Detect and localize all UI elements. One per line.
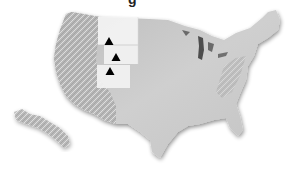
contiguous-us	[54, 10, 280, 158]
state-montana	[98, 17, 138, 45]
us-relief-map	[0, 0, 301, 169]
alaska-inset	[14, 109, 70, 148]
state-colorado	[97, 65, 130, 88]
state-wyoming	[104, 45, 138, 64]
